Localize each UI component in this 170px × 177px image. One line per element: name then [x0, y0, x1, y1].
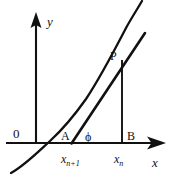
- x-axis-label: x: [151, 155, 158, 170]
- tick-x-current-subscript: n: [119, 159, 123, 168]
- origin-label: 0: [13, 126, 20, 141]
- angle-phi-label: ϕ: [85, 130, 91, 144]
- tick-x-next-subscript: n+1: [66, 159, 79, 168]
- point-p-label: P: [110, 49, 117, 63]
- tangent-line: [72, 33, 146, 144]
- tick-label-x-next: xn+1: [60, 152, 80, 168]
- y-axis-label: y: [45, 14, 53, 29]
- tick-label-x-current: xn: [113, 152, 123, 168]
- point-b-label: B: [127, 129, 135, 143]
- figure-canvas: y x 0 A P B ϕ xn+1 xn: [0, 0, 170, 177]
- newton-method-figure: y x 0 A P B ϕ xn+1 xn: [0, 0, 170, 177]
- point-a-label: A: [61, 129, 70, 143]
